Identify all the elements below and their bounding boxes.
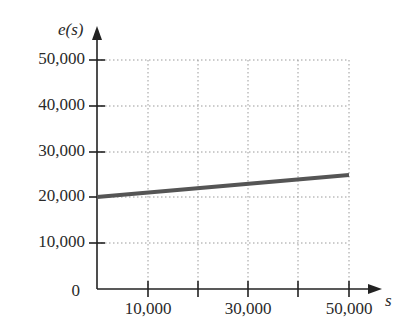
y-tick-label: 10,000 — [5, 232, 85, 252]
series-line-e-s — [97, 175, 349, 197]
y-tick-label: 50,000 — [5, 49, 85, 69]
y-axis-arrow-icon — [92, 26, 102, 40]
x-tick-label: 10,000 — [108, 299, 188, 319]
y-tick-label: 0 — [0, 281, 80, 301]
y-tick-label: 40,000 — [5, 95, 85, 115]
x-axis-arrow-icon — [368, 284, 382, 294]
x-tick-label: 30,000 — [208, 299, 288, 319]
axes — [89, 36, 372, 297]
y-axis-label: e(s) — [58, 20, 83, 40]
x-tick-label: 50,000 — [309, 299, 389, 319]
grid — [97, 60, 349, 289]
y-tick-label: 20,000 — [5, 186, 85, 206]
y-tick-label: 30,000 — [5, 141, 85, 161]
